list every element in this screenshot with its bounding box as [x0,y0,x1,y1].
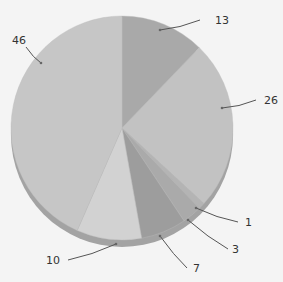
data-label-1: 1 [245,216,252,229]
data-label-3: 3 [232,243,239,256]
leader-dot-13 [159,29,162,32]
pie-chart: 13261371046 [0,0,283,282]
leader-dot-46 [40,62,43,65]
data-label-26: 26 [264,94,278,107]
leader-dot-26 [221,107,224,110]
leader-line-7 [160,236,187,268]
leader-dot-3 [187,219,190,222]
leader-line-3 [188,220,228,249]
leader-dot-1 [195,207,198,210]
data-label-13: 13 [215,14,229,27]
leader-dot-7 [159,235,162,238]
data-label-46: 46 [12,34,26,47]
data-label-7: 7 [193,262,200,275]
leader-line-10 [68,244,116,260]
leader-dot-10 [115,243,118,246]
data-label-10: 10 [46,254,60,267]
pie-slices [11,16,233,240]
